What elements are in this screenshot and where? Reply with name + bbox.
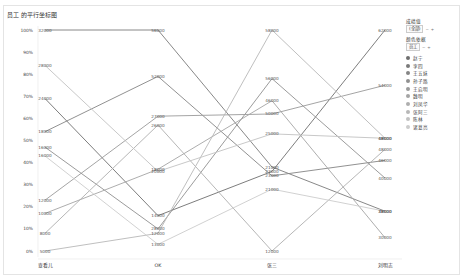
data-label: 52000 [151, 74, 165, 79]
color-label: 颜色依据 [406, 36, 458, 42]
legend-swatch-icon [406, 117, 410, 121]
y-tick-label: 80% [23, 72, 33, 77]
data-label: 23000 [265, 173, 279, 178]
data-label: 25000 [265, 131, 279, 136]
filter-plus-button[interactable]: + [431, 27, 434, 32]
legend-item[interactable]: 诸葛亮 [406, 123, 458, 131]
data-label: 62000 [378, 28, 392, 33]
color-control: 员工 − + [406, 43, 458, 51]
color-select[interactable]: 员工 [406, 43, 420, 51]
data-label: 21000 [265, 187, 279, 192]
series-line [45, 76, 385, 175]
data-label: 8000 [40, 231, 51, 236]
y-tick-label: 60% [23, 116, 33, 121]
data-label: 16000 [38, 153, 52, 158]
legend-item-label: 魏明 [413, 93, 423, 99]
y-tick-label: 30% [23, 182, 33, 187]
legend-item-label: 王启明 [413, 86, 428, 92]
y-tick-label: 50% [23, 138, 33, 143]
legend-item[interactable]: 赵宁 [406, 54, 458, 62]
legend: 成绩值 (全部) − + 颜色依据 员工 − + 赵宁李四王五妹孙子路王启明魏明… [406, 18, 458, 131]
legend-item-label: 诸葛亮 [413, 124, 428, 130]
x-axis-label: 张三 [267, 262, 277, 269]
legend-item-label: 刘凤华 [413, 101, 428, 107]
series-line [45, 156, 385, 244]
legend-swatch-icon [406, 125, 410, 129]
filter-label: 成绩值 [406, 18, 458, 24]
x-axis-label: OK [155, 263, 163, 268]
data-label: 13000 [151, 242, 165, 247]
legend-item[interactable]: 王五妹 [406, 69, 458, 77]
legend-item[interactable]: 张阿三 [406, 108, 458, 116]
color-plus-button[interactable]: + [427, 45, 430, 50]
filter-select[interactable]: (全部) [406, 25, 423, 33]
legend-item-label: 王五妹 [413, 70, 428, 76]
y-tick-label: 0% [26, 249, 33, 254]
color-minus-button[interactable]: − [422, 45, 425, 50]
legend-item[interactable]: 陈林 [406, 116, 458, 124]
data-label: 48000 [378, 136, 392, 141]
series-line [45, 65, 385, 171]
y-tick-label: 90% [23, 50, 33, 55]
data-label: 16000 [38, 145, 52, 150]
legend-item-label: 赵宁 [413, 55, 423, 61]
filter-minus-button[interactable]: − [425, 27, 428, 32]
x-axis-label: 查看儿 [38, 262, 53, 269]
legend-swatch-icon [406, 64, 410, 68]
legend-item-label: 张阿三 [413, 109, 428, 115]
y-tick-label: 20% [23, 204, 33, 209]
legend-item[interactable]: 魏明 [406, 92, 458, 100]
data-label: 46000 [265, 98, 279, 103]
parallel-coordinates-chart: 100%90%80%70%60%50%40%30%20%10%0% 240001… [0, 0, 461, 280]
x-axis-label: 刘明志 [378, 262, 393, 269]
data-label: 56000 [151, 28, 165, 33]
data-label: 24000 [38, 96, 52, 101]
data-label: 58000 [265, 28, 279, 33]
legend-item-label: 孙子路 [413, 78, 428, 84]
legend-item-label: 陈林 [413, 116, 423, 122]
legend-swatch-icon [406, 102, 410, 106]
data-label: 46000 [378, 158, 392, 163]
data-label: 5000 [40, 249, 51, 254]
data-label: 20000 [151, 169, 165, 174]
data-label: 18000 [38, 129, 52, 134]
y-tick-label: 70% [23, 94, 33, 99]
legend-item[interactable]: 李四 [406, 62, 458, 70]
y-tick-label: 10% [23, 226, 33, 231]
data-label: 38000 [378, 209, 392, 214]
data-label: 26000 [151, 123, 165, 128]
data-label: 12000 [38, 198, 52, 203]
series-line [45, 125, 385, 251]
data-label: 48000 [378, 147, 392, 152]
y-tick-label: 100% [20, 28, 33, 33]
data-label: 10000 [38, 211, 52, 216]
legend-item[interactable]: 孙子路 [406, 77, 458, 85]
legend-item[interactable]: 王启明 [406, 85, 458, 93]
data-label: 28000 [38, 63, 52, 68]
data-label: 54000 [378, 83, 392, 88]
series-line [45, 79, 385, 229]
filter-control: (全部) − + [406, 25, 458, 33]
y-tick-label: 40% [23, 160, 33, 165]
data-label: 56000 [265, 76, 279, 81]
legend-swatch-icon [406, 56, 410, 60]
legend-swatch-icon [406, 71, 410, 75]
legend-swatch-icon [406, 79, 410, 83]
data-label: 32000 [38, 28, 52, 33]
legend-item-label: 李四 [413, 63, 423, 69]
data-label: 21000 [265, 165, 279, 170]
data-label: 30000 [378, 235, 392, 240]
series-line [45, 85, 385, 200]
data-label: 50000 [265, 111, 279, 116]
data-label: 14000 [151, 213, 165, 218]
legend-swatch-icon [406, 94, 410, 98]
series-line [45, 30, 385, 251]
data-label: 40000 [378, 176, 392, 181]
data-label: 12000 [151, 231, 165, 236]
legend-swatch-icon [406, 87, 410, 91]
legend-item[interactable]: 刘凤华 [406, 100, 458, 108]
legend-swatch-icon [406, 110, 410, 114]
data-label: 12000 [265, 249, 279, 254]
data-label: 27000 [151, 114, 165, 119]
